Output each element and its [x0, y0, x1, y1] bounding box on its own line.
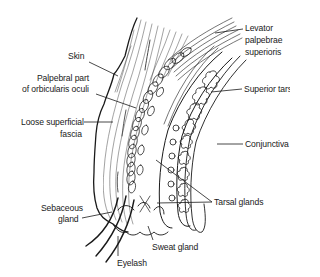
label-sebaceous-line1: Sebaceous [36, 203, 88, 214]
skin-fibers [103, 20, 188, 224]
label-sweat-gland: Sweat gland [152, 242, 198, 253]
levator-fibers [168, 18, 242, 80]
label-orbicularis-line2: of orbicularis oculi [22, 84, 89, 95]
label-levator-line3: superioris [245, 47, 281, 58]
label-skin: Skin [68, 51, 84, 62]
label-conjunctiva: Conjunctiva [245, 139, 289, 150]
label-fascia-line1: Loose superficial [21, 117, 84, 128]
leader-tarsal-glands-2 [157, 202, 212, 203]
label-levator-line1: Levator [245, 23, 273, 34]
skin-contour [94, 18, 137, 232]
label-fascia-line2: fascia [60, 129, 82, 140]
label-levator-line2: palpebrae [245, 35, 282, 46]
leader-lines [82, 29, 243, 256]
label-superior-tarsus: Superior tarsus [244, 84, 290, 95]
label-tarsal-glands: Tarsal glands [214, 197, 263, 208]
leader-orbicularis [96, 94, 136, 108]
label-orbicularis-line1: Palpebral part [22, 73, 104, 84]
leader-tarsal-glands-1 [156, 160, 212, 202]
orbicularis-bundles [126, 46, 193, 194]
label-eyelash: Eyelash [117, 258, 147, 269]
label-sebaceous-line2: gland [58, 214, 79, 225]
leader-tarsus [211, 89, 242, 92]
